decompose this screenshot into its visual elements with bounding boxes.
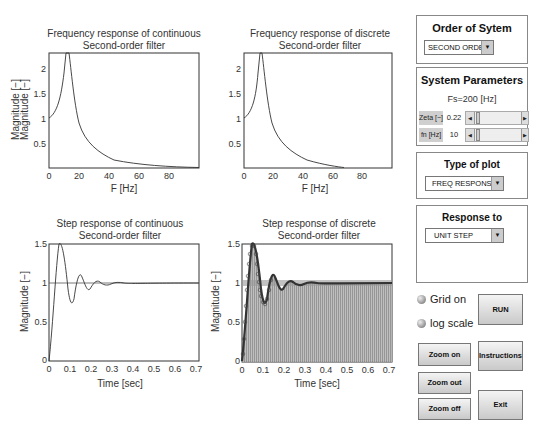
svg-text:1: 1 [42,278,47,288]
step-disc-ylabel: Magnitude [−] [210,252,221,352]
log-scale-radio[interactable]: log scale [417,317,473,329]
freq-disc-axes: 0 20 40 60 80 0.5 1 1.5 2 [244,53,392,168]
freq-cont-plot[interactable]: 0 20 40 60 80 0.5 1 1.5 2 [49,53,199,168]
chevron-down-icon[interactable]: ▼ [481,41,493,54]
svg-text:0.5: 0.5 [228,139,241,149]
step-cont-ylabel: Magnitude [−] [19,252,30,352]
zoom-off-button[interactable]: Zoom off [418,398,471,420]
sample-rate-label: Fs=200 [Hz] [417,94,527,104]
zeta-label: Zeta [−] [419,111,443,125]
response-title: Response to [417,212,527,223]
freq-cont-title: Frequency response of continuous Second-… [14,28,234,52]
freq-disc-ylabel: Magnitude [−] [10,60,21,160]
grid-on-radio[interactable]: Grid on [417,293,466,305]
svg-text:80: 80 [357,171,367,181]
fn-label: fn [Hz] [419,128,443,142]
zoom-out-button[interactable]: Zoom out [418,372,471,394]
svg-text:0.5: 0.5 [341,365,354,375]
arrow-left-icon[interactable]: ◀ [466,112,475,124]
radio-icon[interactable] [417,295,426,304]
svg-text:20: 20 [268,171,278,181]
svg-text:1.5: 1.5 [228,89,241,99]
arrow-left-icon[interactable]: ◀ [466,129,475,141]
svg-text:2: 2 [41,64,46,74]
svg-text:40: 40 [298,171,308,181]
svg-text:0.4: 0.4 [320,365,333,375]
svg-text:60: 60 [328,171,338,181]
title-line1: Step response of continuous [10,218,230,230]
svg-text:0: 0 [241,171,246,181]
response-value: UNIT STEP [434,231,473,240]
svg-text:0: 0 [46,364,51,374]
svg-text:0.4: 0.4 [127,364,140,374]
zeta-input[interactable]: 0.22 [444,111,464,125]
title-line1: Frequency response of continuous [14,28,234,40]
log-scale-label: log scale [430,317,473,329]
run-button[interactable]: RUN [478,294,523,325]
svg-text:0.1: 0.1 [257,365,270,375]
svg-text:1: 1 [235,278,240,288]
arrow-right-icon[interactable]: ▶ [521,129,528,141]
step-disc-title: Step response of discrete Second-order f… [209,218,429,242]
svg-text:0.3: 0.3 [106,364,119,374]
svg-text:1.5: 1.5 [33,89,46,99]
plot-type-title: Type of plot [417,159,527,170]
radio-icon[interactable] [417,319,426,328]
svg-text:2: 2 [236,64,241,74]
svg-text:1.5: 1.5 [227,239,240,249]
fn-slider[interactable]: ◀ ▶ [465,128,529,142]
svg-text:60: 60 [134,171,144,181]
step-disc-plot[interactable]: 0 0.1 0.2 0.3 0.4 0.5 0.6 0.7 0 0.5 1 1.… [242,244,392,362]
svg-text:0.1: 0.1 [64,364,77,374]
svg-text:1: 1 [41,114,46,124]
instructions-button[interactable]: Instructions [478,341,523,371]
svg-text:0: 0 [46,171,51,181]
svg-text:40: 40 [104,171,114,181]
svg-text:0.3: 0.3 [299,365,312,375]
step-cont-axes: 0 0.1 0.2 0.3 0.4 0.5 0.6 0.7 0 0.5 1 1.… [49,244,199,361]
svg-text:0.6: 0.6 [169,364,182,374]
svg-text:0.6: 0.6 [362,365,375,375]
step-disc-axes: 0 0.1 0.2 0.3 0.4 0.5 0.6 0.7 0 0.5 1 1.… [242,244,392,362]
svg-text:1.5: 1.5 [34,239,47,249]
arrow-right-icon[interactable]: ▶ [521,112,528,124]
zoom-on-button[interactable]: Zoom on [418,343,471,366]
svg-text:0.5: 0.5 [34,317,47,327]
params-panel-title: System Parameters [417,74,527,86]
freq-disc-plot[interactable]: 0 20 40 60 80 0.5 1 1.5 2 [244,53,392,168]
svg-text:0.7: 0.7 [190,364,203,374]
fn-row: fn [Hz] 10 ◀ ▶ [419,128,529,142]
svg-text:0.5: 0.5 [227,317,240,327]
svg-text:0: 0 [42,355,47,365]
slider-thumb[interactable] [476,112,480,124]
step-cont-xlabel: Time [sec] [70,378,170,389]
chevron-down-icon[interactable]: ▼ [491,229,503,242]
svg-text:0.7: 0.7 [383,365,396,375]
svg-text:0.2: 0.2 [278,365,291,375]
svg-text:0: 0 [239,365,244,375]
freq-disc-xlabel: F [Hz] [265,183,365,194]
freq-cont-axes: 0 20 40 60 80 0.5 1 1.5 2 [49,53,199,168]
title-line2: Second-order filter [14,40,234,52]
slider-thumb[interactable] [476,129,480,141]
order-panel: Order of Sytem SECOND ORDER ▼ [416,15,528,64]
svg-text:1: 1 [236,114,241,124]
chevron-down-icon[interactable]: ▼ [491,177,503,190]
params-panel: System Parameters Fs=200 [Hz] Zeta [−] 0… [416,67,528,146]
fn-input[interactable]: 10 [444,128,464,142]
plot-type-panel: Type of plot FREQ RESPONSE ▼ [416,152,528,199]
response-panel: Response to UNIT STEP ▼ [416,205,528,283]
svg-text:0.2: 0.2 [85,364,98,374]
order-dropdown[interactable]: SECOND ORDER ▼ [424,40,494,55]
freq-disc-title: Frequency response of discrete Second-or… [210,28,430,52]
plot-type-value: FREQ RESPONSE [432,179,497,188]
step-cont-plot[interactable]: 0 0.1 0.2 0.3 0.4 0.5 0.6 0.7 0 0.5 1 1.… [49,244,199,361]
svg-text:80: 80 [164,171,174,181]
exit-button[interactable]: Exit [478,390,523,420]
response-dropdown[interactable]: UNIT STEP ▼ [425,228,504,243]
zeta-slider[interactable]: ◀ ▶ [465,111,529,125]
order-panel-title: Order of Sytem [417,22,527,34]
svg-text:20: 20 [74,171,84,181]
title-line2: Second-order filter [209,230,429,242]
plot-type-dropdown[interactable]: FREQ RESPONSE ▼ [425,176,504,191]
